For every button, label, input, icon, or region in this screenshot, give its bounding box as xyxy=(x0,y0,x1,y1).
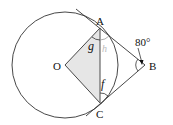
label-b: B xyxy=(149,60,156,72)
arc-f xyxy=(100,93,108,96)
label-h: h xyxy=(102,43,107,54)
label-f: f xyxy=(101,77,106,91)
label-c: C xyxy=(96,108,103,120)
label-o: O xyxy=(53,60,61,72)
arrow-head-icon xyxy=(140,60,144,65)
arc-h xyxy=(100,36,109,40)
geometry-diagram: A B C O g h f 80° xyxy=(0,0,173,125)
arc-b xyxy=(136,59,138,71)
label-a: A xyxy=(96,15,104,27)
label-g: g xyxy=(88,39,94,53)
label-80: 80° xyxy=(135,36,150,48)
